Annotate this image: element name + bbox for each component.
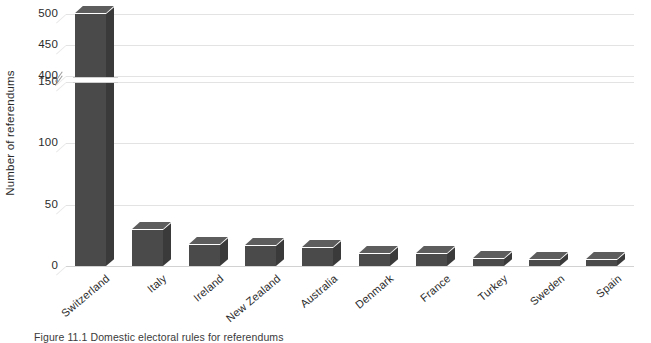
chart-figure: Number of referendums 500450400150100500… xyxy=(0,0,651,343)
bar-side-face xyxy=(163,224,171,266)
gridline-50 xyxy=(66,205,634,206)
y-tick-label-50: 50 xyxy=(45,199,58,211)
x-tick-label-italy: Italy xyxy=(145,272,169,295)
bar-sweden xyxy=(529,252,560,266)
plot-area xyxy=(66,14,634,266)
bar-front-face xyxy=(586,260,617,266)
bar-front-face xyxy=(302,248,333,266)
bar-switzerland xyxy=(75,6,106,266)
bar-ireland xyxy=(189,237,220,266)
bar-front-face xyxy=(245,246,276,266)
x-tick-label-sweden: Sweden xyxy=(527,272,566,308)
y-tick-label-450: 450 xyxy=(38,39,58,51)
bar-denmark xyxy=(359,246,390,266)
bar-front-face xyxy=(75,14,106,266)
axis-break-band xyxy=(73,77,118,83)
y-tick-label-100: 100 xyxy=(38,138,58,150)
x-tick-label-australia: Australia xyxy=(297,272,339,310)
gridline-0 xyxy=(66,266,634,267)
bar-turkey xyxy=(473,251,504,266)
bar-front-face xyxy=(132,230,163,266)
y-tick-label-500: 500 xyxy=(38,8,58,20)
y-axis-tick-labels: 500450400150100500 xyxy=(0,0,66,266)
bar-side-face xyxy=(106,7,114,266)
x-axis-tick-labels: SwitzerlandItalyIrelandNew ZealandAustra… xyxy=(66,268,634,326)
bar-front-face xyxy=(416,254,447,266)
bar-italy xyxy=(132,222,163,266)
bar-france xyxy=(416,246,447,266)
gridline-100 xyxy=(66,143,634,144)
bar-top-face xyxy=(473,251,512,258)
x-tick-label-switzerland: Switzerland xyxy=(59,272,112,319)
bar-front-face xyxy=(359,254,390,266)
x-tick-label-turkey: Turkey xyxy=(476,272,510,303)
bar-front-face xyxy=(529,260,560,266)
bar-front-face xyxy=(473,259,504,266)
x-tick-label-spain: Spain xyxy=(593,272,623,300)
bar-spain xyxy=(586,252,617,266)
x-tick-label-new-zealand: New Zealand xyxy=(223,272,282,324)
figure-caption: Figure 11.1 Domestic electoral rules for… xyxy=(34,331,284,343)
x-tick-label-ireland: Ireland xyxy=(191,272,226,304)
bar-new-zealand xyxy=(245,238,276,266)
gridline-450 xyxy=(66,45,634,46)
bar-front-face xyxy=(189,245,220,266)
gridline-500 xyxy=(66,14,634,15)
bar-australia xyxy=(302,240,333,266)
gridline-400 xyxy=(66,76,634,77)
x-tick-label-denmark: Denmark xyxy=(353,272,396,311)
gridline-150 xyxy=(66,82,634,83)
x-tick-label-france: France xyxy=(418,272,453,304)
y-tick-label-0: 0 xyxy=(51,260,58,272)
